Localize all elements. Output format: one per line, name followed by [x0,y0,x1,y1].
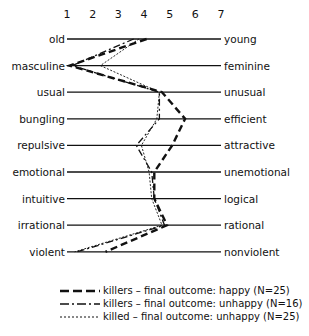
left-anchor-label: old [49,33,65,45]
dotted-swatch-icon [60,313,100,321]
left-anchor-label: irrational [18,219,65,231]
long-dash-swatch-icon [60,287,100,295]
legend-label: killers – final outcome: happy (N=25) [103,284,290,297]
scale-ticks: 1234567 [64,8,225,21]
tick-label: 2 [89,8,96,21]
left-anchor-label: intuitive [22,193,65,205]
left-anchor-label: violent [29,246,65,258]
right-anchor-label: unemotional [224,166,290,178]
right-anchor-label: logical [224,193,258,205]
tick-label: 3 [115,8,122,21]
right-anchor-label: rational [224,219,264,231]
left-anchor-label: repulsive [17,139,65,151]
left-anchor-label: masculine [11,60,65,72]
left-anchor-label: usual [37,86,65,98]
right-anchor-label: attractive [224,139,275,151]
legend-item-killers-happy: killers – final outcome: happy (N=25) [60,284,302,297]
right-anchor-label: young [224,33,257,45]
left-anchor-label: emotional [12,166,65,178]
tick-label: 4 [141,8,148,21]
tick-label: 1 [64,8,71,21]
right-anchor-label: unusual [224,86,265,98]
right-anchor-label: efficient [224,113,267,125]
tick-label: 6 [192,8,199,21]
legend-label: killers – final outcome: unhappy (N=16) [103,297,302,310]
legend-item-killers-unhappy: killers – final outcome: unhappy (N=16) [60,297,302,310]
legend-label: killed – final outcome: unhappy (N=25) [103,310,299,323]
legend: killers – final outcome: happy (N=25) ki… [60,284,302,323]
right-anchor-label: nonviolent [224,246,279,258]
tick-label: 7 [218,8,225,21]
scale-rows: oldyoungmasculinefeminineusualunusualbun… [11,33,289,258]
tick-label: 5 [166,8,173,21]
dash-dot-swatch-icon [60,300,100,308]
semantic-differential-chart: 1234567 oldyoungmasculinefeminineusualun… [0,0,309,280]
legend-item-killed-unhappy: killed – final outcome: unhappy (N=25) [60,310,302,323]
left-anchor-label: bungling [19,113,65,125]
right-anchor-label: feminine [224,60,270,72]
